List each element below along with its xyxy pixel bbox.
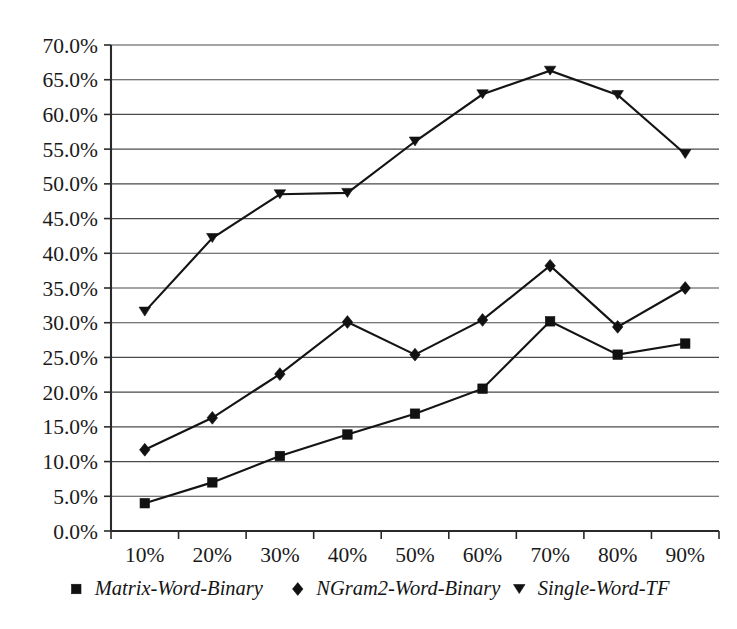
legend-label: Single-Word-TF: [538, 577, 670, 600]
y-axis-tick-label: 45.0%: [42, 207, 98, 231]
y-axis-tick-label: 40.0%: [42, 242, 98, 266]
x-axis-tick-label: 60%: [463, 543, 503, 567]
legend-marker: [293, 583, 303, 596]
y-axis-tick-label: 25.0%: [42, 346, 98, 370]
y-axis-tick-label: 30.0%: [42, 311, 98, 335]
data-point-marker: [544, 66, 556, 75]
gridlines-group: [111, 45, 719, 531]
y-axis-tick-label: 15.0%: [42, 415, 98, 439]
data-point-marker: [410, 409, 420, 419]
y-axis-group: [104, 45, 111, 531]
y-axis-tick-label: 50.0%: [42, 172, 98, 196]
y-axis-tick-label: 35.0%: [42, 277, 98, 301]
chart-canvas: 0.0%5.0%10.0%15.0%20.0%25.0%30.0%35.0%40…: [0, 0, 737, 629]
x-tick-labels-group: 10%20%30%40%50%60%70%80%90%: [125, 543, 705, 567]
data-point-marker: [410, 348, 420, 361]
series-group: [139, 66, 691, 508]
data-point-marker: [680, 282, 690, 295]
data-point-marker: [140, 443, 150, 456]
data-point-marker: [343, 430, 353, 440]
series-line: [145, 71, 685, 312]
legend-marker: [72, 584, 82, 594]
data-point-marker: [478, 384, 488, 394]
data-series: [139, 66, 691, 316]
x-axis-tick-label: 80%: [598, 543, 638, 567]
y-axis-tick-label: 10.0%: [42, 450, 98, 474]
x-axis-tick-label: 50%: [395, 543, 435, 567]
legend-marker: [514, 585, 526, 594]
x-axis-tick-label: 30%: [260, 543, 300, 567]
data-point-marker: [207, 411, 217, 424]
line-chart: 0.0%5.0%10.0%15.0%20.0%25.0%30.0%35.0%40…: [0, 0, 737, 629]
y-axis-tick-label: 20.0%: [42, 381, 98, 405]
y-axis-tick-label: 0.0%: [53, 520, 98, 544]
y-axis-tick-label: 5.0%: [53, 485, 98, 509]
data-point-marker: [477, 314, 487, 327]
x-axis-tick-label: 70%: [530, 543, 570, 567]
x-axis-tick-label: 10%: [125, 543, 165, 567]
data-point-marker: [208, 478, 218, 488]
data-point-marker: [680, 339, 690, 349]
legend-label: NGram2-Word-Binary: [315, 577, 501, 600]
y-axis-tick-label: 70.0%: [42, 34, 98, 58]
data-point-marker: [342, 316, 352, 329]
y-tick-labels-group: 0.0%5.0%10.0%15.0%20.0%25.0%30.0%35.0%40…: [42, 34, 98, 544]
legend-label: Matrix-Word-Binary: [94, 577, 264, 600]
data-point-marker: [275, 451, 285, 461]
x-axis-tick-label: 90%: [666, 543, 706, 567]
y-axis-tick-label: 55.0%: [42, 138, 98, 162]
data-point-marker: [545, 317, 555, 327]
data-point-marker: [275, 368, 285, 381]
x-axis-group: [111, 531, 719, 539]
y-axis-tick-label: 60.0%: [42, 103, 98, 127]
legend-group: Matrix-Word-BinaryNGram2-Word-BinarySing…: [72, 577, 670, 600]
y-axis-tick-label: 65.0%: [42, 68, 98, 92]
data-point-marker: [613, 350, 623, 360]
x-axis-tick-label: 20%: [193, 543, 233, 567]
data-point-marker: [140, 498, 150, 508]
data-point-marker: [679, 150, 691, 159]
data-point-marker: [139, 307, 151, 316]
x-axis-tick-label: 40%: [328, 543, 368, 567]
